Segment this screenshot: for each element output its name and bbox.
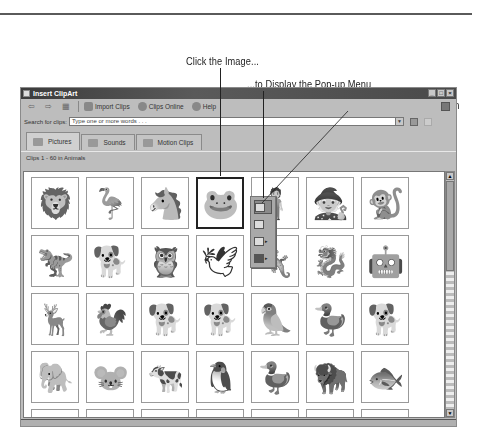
callout-line-insert-clip bbox=[0, 0, 484, 446]
